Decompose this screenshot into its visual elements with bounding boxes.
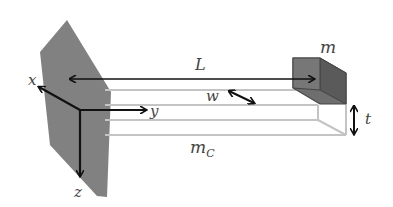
axis-x-label: x <box>28 71 37 89</box>
cantilever-diagram: L m w t mC x y z <box>0 0 393 207</box>
width-arrow <box>229 91 254 103</box>
tip-mass <box>293 58 346 104</box>
axis-z-label: z <box>73 183 82 201</box>
beam-mass-label: mC <box>190 137 215 160</box>
width-label: w <box>206 87 219 105</box>
tip-mass-label: m <box>320 37 336 57</box>
thickness-label: t <box>365 110 372 128</box>
axis-y-label: y <box>149 102 159 120</box>
length-label: L <box>194 55 206 74</box>
